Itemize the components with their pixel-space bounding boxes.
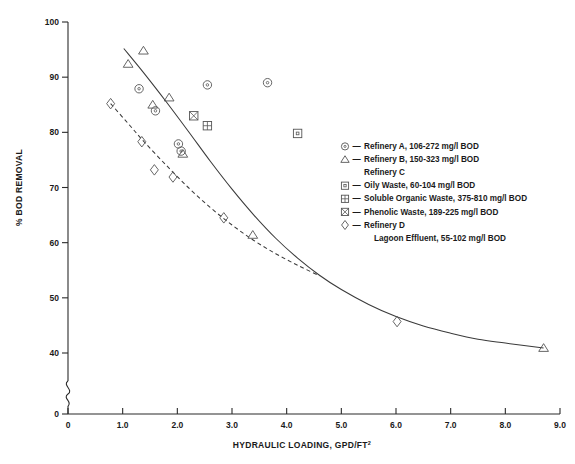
data-point-circle <box>135 85 143 93</box>
x-tick-label: 1.0 <box>117 420 129 430</box>
legend-dash: — <box>353 194 362 203</box>
legend-label: Oily Waste, 60-104 mg/l BOD <box>364 181 475 190</box>
data-point-diamond <box>107 98 115 109</box>
legend-item: —Refinery A, 106-272 mg/l BOD <box>341 142 479 151</box>
legend-label: Phenolic Waste, 189-225 mg/l BOD <box>364 208 498 217</box>
series-square-plus <box>203 122 211 130</box>
legend-item: —Oily Waste, 60-104 mg/l BOD <box>341 181 475 190</box>
data-point-triangle <box>178 149 188 157</box>
legend-label: Refinery A, 106-272 mg/l BOD <box>364 142 479 151</box>
y-tick-label: 100 <box>45 17 59 27</box>
data-point-diamond <box>169 172 177 183</box>
legend-item: —Phenolic Waste, 189-225 mg/l BOD <box>341 208 498 217</box>
y-tick-label: 50 <box>50 293 60 303</box>
data-point-diamond <box>150 165 158 176</box>
legend: —Refinery A, 106-272 mg/l BOD—Refinery B… <box>341 142 527 243</box>
x-tick-label: 8.0 <box>499 420 511 430</box>
legend-label: Refinery B, 150-323 mg/l BOD <box>364 155 479 164</box>
data-point-triangle <box>164 93 174 101</box>
legend-dash: — <box>353 155 362 164</box>
chart-figure: 405060708090100001.02.03.04.05.06.07.08.… <box>0 0 575 464</box>
y-axis-title: % BOD REMOVAL <box>14 149 24 226</box>
data-point-square-cross <box>190 112 198 120</box>
series-square <box>293 129 301 137</box>
data-point-square <box>293 129 301 137</box>
x-axis-title: HYDRAULIC LOADING, GPD/FT2 <box>233 440 371 450</box>
y-tick-label: 90 <box>50 72 60 82</box>
data-point-square-plus <box>203 122 211 130</box>
series-circle <box>135 78 272 155</box>
x-tick-label: 4.0 <box>281 420 293 430</box>
data-point-circle <box>341 143 348 150</box>
legend-label: Refinery C <box>364 168 405 177</box>
y-tick-label: 70 <box>50 183 60 193</box>
data-point-diamond <box>342 221 349 230</box>
x-tick-label: 0 <box>66 420 71 430</box>
data-point-circle <box>263 78 271 86</box>
legend-label: Soluble Organic Waste, 375-810 mg/l BOD <box>364 194 527 203</box>
data-point-triangle <box>248 231 258 239</box>
legend-dash: — <box>353 221 362 230</box>
x-tick-label: 5.0 <box>335 420 347 430</box>
legend-item: —Refinery B, 150-323 mg/l BOD <box>341 155 479 164</box>
legend-item: —Refinery D <box>342 221 405 230</box>
legend-label: Refinery D <box>364 221 405 230</box>
y-tick-label-zero: 0 <box>54 409 59 419</box>
x-tick-label: 3.0 <box>226 420 238 430</box>
legend-item: Refinery C <box>364 168 405 177</box>
legend-label: Lagoon Effluent, 55-102 mg/l BOD <box>374 234 506 243</box>
legend-dash: — <box>353 181 362 190</box>
legend-dash: — <box>353 208 362 217</box>
data-point-circle <box>203 81 211 89</box>
x-tick-label: 2.0 <box>171 420 183 430</box>
series-square-cross <box>190 112 198 120</box>
data-point-square-cross <box>341 208 348 215</box>
x-tick-label: 6.0 <box>390 420 402 430</box>
data-point-triangle <box>341 156 349 163</box>
chart-svg: 405060708090100001.02.03.04.05.06.07.08.… <box>0 0 575 464</box>
data-point-diamond <box>220 213 228 224</box>
y-tick-label: 40 <box>50 348 60 358</box>
data-point-triangle <box>123 60 133 68</box>
data-point-square-plus <box>341 195 348 202</box>
legend-item: Lagoon Effluent, 55-102 mg/l BOD <box>374 234 506 243</box>
data-point-triangle <box>139 46 149 54</box>
x-tick-label: 7.0 <box>445 420 457 430</box>
axes: 405060708090100001.02.03.04.05.06.07.08.… <box>45 17 566 430</box>
legend-item: —Soluble Organic Waste, 375-810 mg/l BOD <box>341 194 527 203</box>
data-point-square <box>341 182 348 189</box>
y-tick-label: 80 <box>50 127 60 137</box>
x-axis-title-superscript: 2 <box>368 440 371 446</box>
x-tick-label: 9.0 <box>554 420 566 430</box>
legend-dash: — <box>353 142 362 151</box>
y-tick-label: 60 <box>50 238 60 248</box>
